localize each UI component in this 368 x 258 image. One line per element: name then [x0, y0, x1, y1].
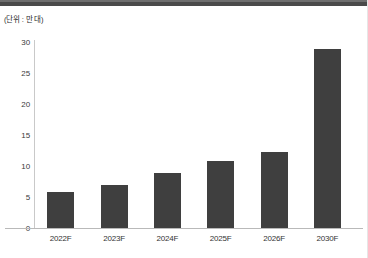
x-tick-label-2025F: 2025F — [191, 234, 251, 243]
y-tick-label-25: 25 — [6, 69, 30, 78]
bar-2030F — [314, 49, 341, 228]
x-tick-label-2022F: 2022F — [31, 234, 91, 243]
y-tick-label-15: 15 — [6, 131, 30, 140]
bar-2023F — [101, 185, 128, 228]
x-tick-label-2023F: 2023F — [84, 234, 144, 243]
x-tick-label-2030F: 2030F — [297, 234, 357, 243]
y-tick-label-5: 5 — [6, 193, 30, 202]
x-tick-label-2026F: 2026F — [244, 234, 304, 243]
y-tick-label-10: 10 — [6, 162, 30, 171]
top-page-rule — [0, 2, 368, 6]
bar-chart-figure: (단위 : 만 대) 30 25 20 15 10 5 0 2022F2023F… — [0, 0, 368, 258]
y-tick-label-20: 20 — [6, 100, 30, 109]
bar-2025F — [207, 161, 234, 228]
bar-2026F — [261, 152, 288, 228]
bar-2022F — [47, 192, 74, 228]
bar-2024F — [154, 173, 181, 228]
y-axis-tick-labels: 30 25 20 15 10 5 0 — [4, 0, 30, 258]
y-tick-label-30: 30 — [6, 38, 30, 47]
x-axis-line — [5, 228, 363, 229]
x-tick-label-2024F: 2024F — [137, 234, 197, 243]
plot-area — [34, 42, 354, 228]
